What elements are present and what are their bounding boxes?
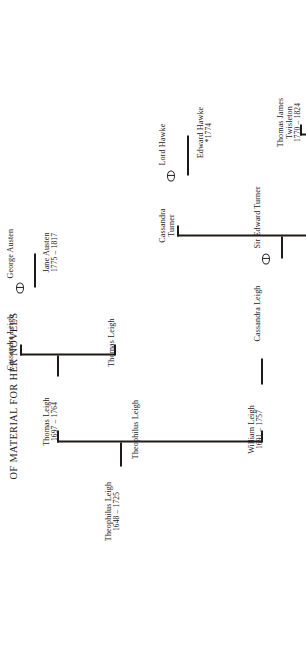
marriage-symbol-hawke — [167, 170, 175, 181]
person-lord-hawke: Lord Hawke — [158, 75, 167, 165]
person-dates: *1774 — [205, 87, 213, 177]
person-cassandra-leigh-austen: Cassandra Leigh — [6, 297, 15, 387]
connector-william-stem — [261, 358, 263, 384]
person-thomas-james-twisleton: Thomas James Twisleton 1770 – 1824 — [276, 77, 302, 167]
person-name-line1: Cassandra — [158, 183, 167, 267]
person-cassandra-leigh-turner: Cassandra Leigh — [253, 268, 262, 358]
person-dates: 1648 – 1725 — [113, 466, 121, 556]
person-edward-hawke: Edward Hawke *1774 — [196, 87, 213, 177]
person-thomas-leigh-1697: Thomas Leigh 1697 – 1764 — [42, 376, 59, 466]
person-name: Cassandra Leigh — [6, 297, 15, 387]
connector-gen2-spine — [57, 441, 262, 443]
person-theophilus-leigh-jr: Theophilus Leigh — [131, 384, 140, 474]
connector-austen-issue — [34, 253, 36, 287]
person-william-leigh: William Leigh 1691 – 1757 — [247, 384, 264, 474]
person-name-line1: Thomas James — [276, 77, 285, 167]
marriage-symbol-austen — [16, 282, 24, 293]
person-theophilus-leigh-sr: Theophilus Leigh 1648 – 1725 — [104, 466, 121, 556]
connector-turner-children-top-arm — [177, 225, 179, 236]
person-name: Thomas Leigh — [107, 297, 116, 387]
connector-turner-issue-stem — [281, 236, 283, 258]
connector-theophilus-stem — [120, 442, 122, 466]
connector-thomas-1697-stem — [57, 355, 59, 376]
connector-hawke-issue — [187, 135, 189, 175]
marriage-symbol-turner — [262, 253, 270, 264]
person-sir-edward-turner: Sir Edward Turner — [253, 148, 262, 248]
person-dates: 1697 – 1764 — [51, 376, 59, 466]
connector-gen3-upper-top-arm — [20, 344, 22, 355]
person-name: Cassandra Leigh — [253, 268, 262, 358]
connector-turner-children-spine — [177, 235, 306, 237]
person-name: Lord Hawke — [158, 75, 167, 165]
family-tree-canvas: OF MATERIAL FOR HER NOVELS Theophilus Le… — [0, 0, 306, 659]
person-name: Sir Edward Turner — [253, 148, 262, 248]
person-george-austen: George Austen — [6, 188, 15, 278]
person-thomas-leigh-jr: Thomas Leigh — [107, 297, 116, 387]
person-dates: 1770 – 1824 — [294, 77, 302, 167]
person-name: Theophilus Leigh — [131, 384, 140, 474]
person-jane-austen: Jane Austen 1775 – 1817 — [42, 207, 59, 297]
person-cassandra-turner: Cassandra Turner — [158, 183, 176, 267]
person-dates: 1775 – 1817 — [51, 207, 59, 297]
connector-gen3-upper-spine — [20, 354, 115, 356]
person-name: George Austen — [6, 188, 15, 278]
person-dates: 1691 – 1757 — [256, 384, 264, 474]
person-name-line2: Turner — [167, 183, 176, 267]
